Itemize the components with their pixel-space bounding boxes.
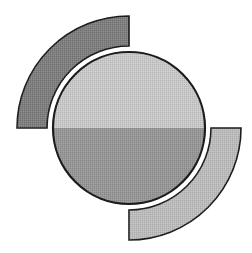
logo-canvas: Abstract logo consisting of a circle spl… (0, 0, 252, 253)
central-circle-group (53, 52, 205, 204)
abstract-circle-logo (0, 0, 252, 253)
